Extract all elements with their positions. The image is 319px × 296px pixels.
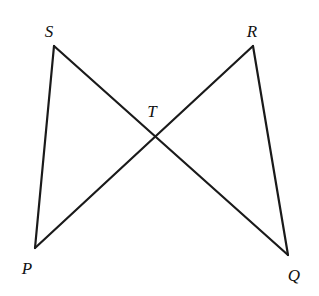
segment-RP [35,46,253,248]
figure-canvas [0,0,319,296]
vertex-label-R: R [247,23,257,40]
vertex-label-P: P [22,260,32,277]
geometry-diagram: S R T P Q [0,0,319,296]
segment-SQ [54,46,288,255]
vertex-label-S: S [45,23,54,40]
vertex-label-T: T [147,103,156,120]
segment-SP [35,46,54,248]
segment-RQ [253,46,288,255]
vertex-label-Q: Q [288,267,300,284]
segments-group [35,46,288,255]
